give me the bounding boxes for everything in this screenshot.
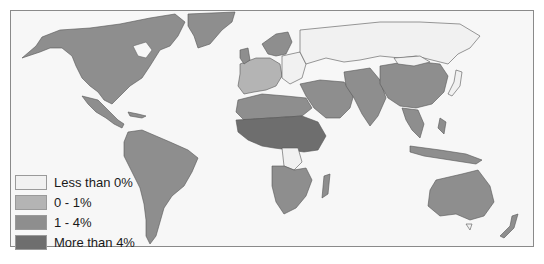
legend-label: 0 - 1% (54, 195, 92, 210)
region-north-america (22, 14, 185, 104)
region-new-zealand (500, 214, 518, 238)
region-south-america (124, 130, 198, 244)
legend-item: 1 - 4% (15, 213, 135, 232)
map-legend: Less than 0% 0 - 1% 1 - 4% More than 4% (15, 173, 135, 253)
legend-item: Less than 0% (15, 173, 135, 192)
region-japan (448, 70, 462, 96)
region-sub-saharan-africa (236, 116, 326, 152)
region-australia (428, 170, 494, 220)
legend-label: 1 - 4% (54, 215, 92, 230)
legend-item: More than 4% (15, 233, 135, 252)
region-central-america (82, 96, 124, 128)
region-china (380, 62, 448, 108)
region-greenland (188, 12, 235, 48)
region-indonesia (410, 146, 482, 164)
region-southern-africa (272, 166, 312, 214)
legend-label: Less than 0% (54, 175, 133, 190)
region-madagascar (322, 174, 330, 198)
region-scandinavia (262, 32, 292, 56)
legend-item: 0 - 1% (15, 193, 135, 212)
legend-swatch-0-1 (15, 195, 47, 210)
legend-swatch-1-4 (15, 215, 47, 230)
region-southeast-asia (402, 108, 424, 138)
legend-label: More than 4% (54, 235, 135, 250)
region-caribbean (128, 112, 146, 118)
region-philippines (438, 118, 446, 134)
region-russia (300, 22, 480, 64)
legend-swatch-less-than-0 (15, 175, 47, 190)
legend-swatch-more-than-4 (15, 235, 47, 250)
region-tasmania (466, 224, 472, 230)
